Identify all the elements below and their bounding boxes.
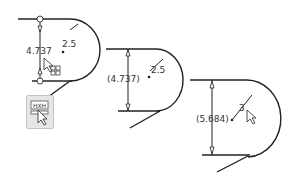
panel-2-dimension-label[interactable]: (4.737): [107, 75, 140, 84]
panel-2-radius-label[interactable]: 2.5: [151, 66, 165, 75]
panel-1-radius-label[interactable]: 2.5: [62, 40, 76, 49]
panel-3-cursor-icon: [247, 110, 256, 124]
panel-1-geometry: [18, 19, 100, 97]
svg-text:HXH: HXH: [33, 102, 46, 109]
panel-3-geometry: [190, 80, 281, 172]
convert-to-reference-button[interactable]: HXH: [26, 95, 54, 129]
panel-3-dimension-label[interactable]: (5.684): [196, 115, 229, 124]
panel-1-dimension-label[interactable]: 4.737: [26, 47, 52, 56]
reference-dimension-icon: HXH: [27, 96, 53, 128]
panel-2-geometry: [106, 49, 183, 128]
panel-1-cursor-icon: [44, 58, 53, 72]
panel-1-mini-toolbar-icon: [51, 66, 60, 75]
panel-3-radius-label[interactable]: 3: [239, 104, 245, 113]
sketch-diagram: [0, 0, 287, 184]
